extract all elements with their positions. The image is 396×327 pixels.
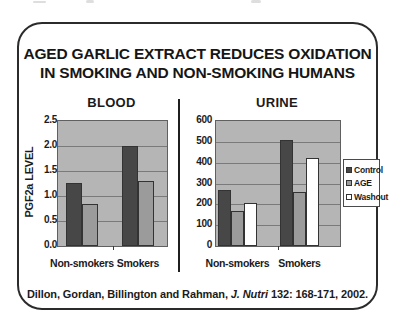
category-label: Smokers [117, 257, 159, 269]
gridline [216, 142, 340, 143]
gridline [58, 146, 167, 147]
gridline [216, 184, 340, 185]
legend-label: AGE [354, 178, 372, 188]
citation: Dillon, Gordan, Billington and Rahman, J… [19, 288, 376, 300]
legend-label: Washout [354, 192, 388, 202]
legend-swatch-washout [346, 194, 352, 200]
citation-journal: J. Nutri [231, 288, 268, 300]
y-tick-label: 100 [184, 219, 212, 229]
gridline [216, 204, 340, 205]
bar-control-non-smokers [66, 183, 82, 246]
y-tick-label: 0 [184, 240, 212, 250]
citation-reference: 132: 168-171, 2002. [268, 288, 368, 300]
scan-artifact [251, 0, 261, 3]
gridline [216, 163, 340, 164]
legend-item: AGE [346, 178, 377, 188]
bar-age-non-smokers [231, 211, 244, 246]
gridline [58, 171, 167, 172]
legend-item: Control [346, 165, 377, 175]
bar-control-smokers [122, 146, 138, 246]
y-tick-label: 600 [184, 115, 212, 125]
y-tick-label: 200 [184, 198, 212, 208]
bar-washout-non-smokers [244, 203, 257, 246]
y-tick-label: 400 [184, 157, 212, 167]
legend-item: Washout [346, 192, 377, 202]
bar-age-smokers [293, 192, 306, 246]
legend: ControlAGEWashout [343, 159, 380, 207]
urine-plot-area: Non-smokersSmokers [215, 120, 341, 247]
category-label: Smokers [278, 257, 320, 269]
figure-canvas: AGED GARLIC EXTRACT REDUCES OXIDATION IN… [0, 0, 396, 327]
citation-authors: Dillon, Gordan, Billington and Rahman, [27, 288, 231, 300]
category-label: Non-smokers [50, 257, 114, 269]
bar-age-non-smokers [82, 204, 98, 246]
y-tick-label: 500 [184, 136, 212, 146]
legend-label: Control [354, 165, 383, 175]
scan-artifact [33, 1, 46, 3]
figure-card: AGED GARLIC EXTRACT REDUCES OXIDATION IN… [17, 22, 378, 310]
legend-swatch-age [346, 180, 352, 186]
urine-y-axis: 0100200300400500600 [184, 120, 212, 245]
category-label: Non-smokers [206, 257, 270, 269]
legend-swatch-control [346, 167, 352, 173]
scan-artifact [86, 0, 94, 3]
bar-control-smokers [280, 140, 293, 246]
bar-control-non-smokers [218, 190, 231, 246]
bar-washout-smokers [306, 158, 319, 246]
y-tick-label: 300 [184, 178, 212, 188]
bar-age-smokers [138, 181, 154, 246]
